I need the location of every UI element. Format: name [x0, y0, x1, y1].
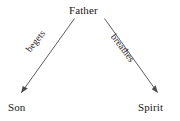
trinity-diagram: Father Son Spirit begets breathes	[0, 0, 180, 121]
node-label-son: Son	[8, 101, 25, 113]
node-label-father: Father	[69, 4, 98, 16]
node-label-spirit: Spirit	[138, 101, 163, 113]
edge-line-father-son	[22, 19, 75, 93]
